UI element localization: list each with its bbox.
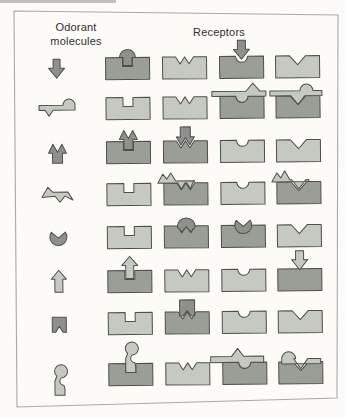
odorant-molecules-label: Odorant molecules [37, 21, 115, 48]
receptor-body [166, 363, 210, 385]
receptor-body [165, 312, 209, 334]
receptor-body [165, 270, 209, 292]
receptor-body [163, 97, 207, 119]
receptor-r8-c2-double-v [166, 363, 210, 385]
receptor-r2-c2-double-v [163, 97, 207, 119]
receptor-body [278, 268, 322, 290]
receptor-r1-c2-double-v [163, 57, 207, 79]
receptor-body [163, 141, 207, 163]
receptor-body [164, 183, 208, 205]
receptor-body [164, 226, 208, 248]
receptors-label: Receptors [180, 26, 258, 40]
textbook-figure: Odorant molecules Receptors [0, 0, 346, 417]
receptor-body [163, 57, 207, 79]
receptor-r6-c2-double-v [165, 270, 209, 292]
figure-canvas [0, 0, 346, 417]
